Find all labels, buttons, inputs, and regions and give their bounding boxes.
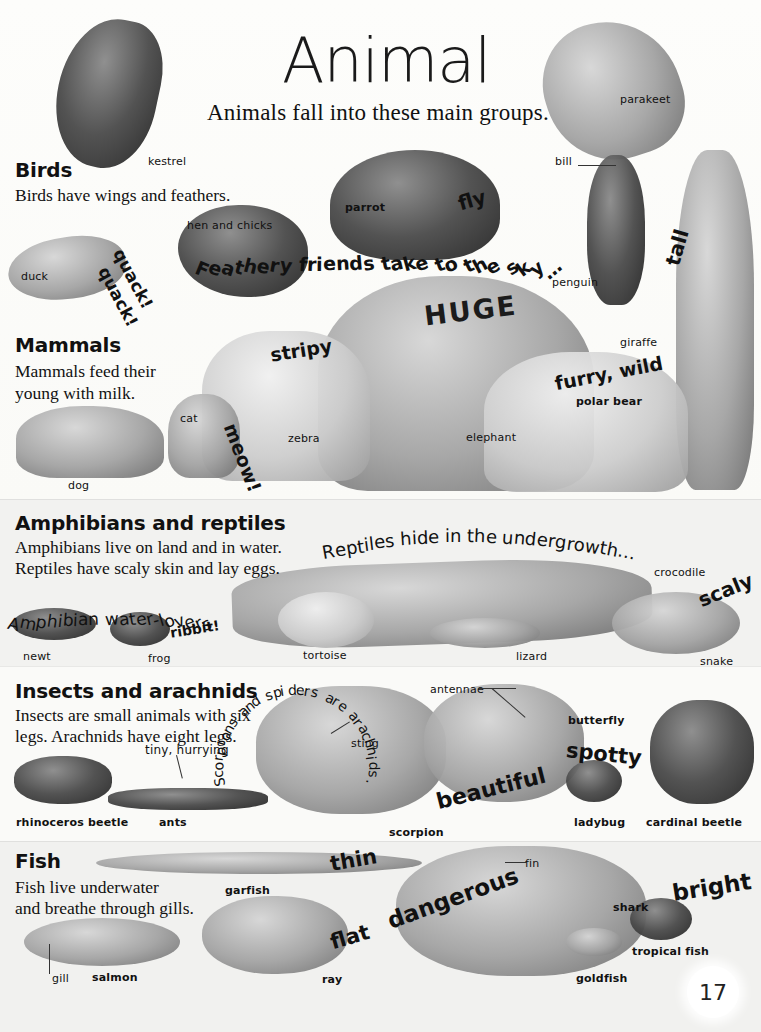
label-garfish: garfish [225, 884, 270, 897]
label-antennae: antennae [430, 683, 484, 696]
section-heading-fish: Fish [15, 849, 61, 873]
photo-cardinal-beetle [650, 700, 754, 804]
leader-line-gill [49, 944, 50, 974]
label-crocodile: crocodile [654, 566, 706, 579]
label-tortoise: tortoise [303, 649, 347, 662]
label-gill: gill [52, 972, 69, 985]
photo-dog [16, 406, 164, 478]
label-ladybug: ladybug [574, 816, 625, 829]
label-snake: snake [700, 655, 733, 668]
page-number: 17 [699, 980, 727, 1005]
label-dog: dog [68, 479, 89, 492]
label-tropical-fish: tropical fish [632, 945, 709, 958]
section-body-birds: Birds have wings and feathers. [15, 184, 230, 206]
arc-text-reptiles-hide: Reptiles hide in the undergrowth… [322, 541, 636, 563]
label-bill: bill [555, 155, 572, 168]
label-frog: frog [148, 652, 171, 665]
label-polar-bear: polar bear [576, 395, 642, 408]
label-lizard: lizard [516, 650, 547, 663]
label-parrot: parrot [345, 201, 385, 214]
photo-goldfish [566, 928, 622, 956]
section-heading-insects-arachnids: Insects and arachnids [15, 679, 258, 703]
arc-text-amphibian-water-lovers: Amphibian water-lovers [8, 614, 211, 635]
page-subtitle: Animals fall into these main groups. [207, 100, 549, 126]
label-cat: cat [180, 412, 198, 425]
section-heading-mammals: Mammals [15, 333, 121, 357]
label-parakeet: parakeet [620, 93, 670, 106]
label-kestrel: kestrel [148, 155, 186, 168]
section-body-mammals-line1: Mammals feed their [15, 360, 156, 382]
arc-text-feathery-friends: Feathery friends take to the sky… [196, 258, 561, 281]
label-giraffe: giraffe [620, 336, 657, 349]
section-heading-amphibians-reptiles: Amphibians and reptiles [15, 511, 285, 535]
label-ray: ray [322, 973, 342, 986]
label-cardinal-beetle: cardinal beetle [646, 816, 742, 829]
label-scorpion: scorpion [389, 826, 444, 839]
label-hen-and-chicks: hen and chicks [187, 219, 272, 232]
photo-ray [202, 896, 348, 974]
leader-line-antennae [478, 688, 516, 689]
section-body-fish-line2: and breathe through gills. [15, 897, 194, 919]
section-heading-birds: Birds [15, 158, 72, 182]
section-body-insects-line1: Insects are small animals with six [15, 704, 251, 726]
section-body-fish-line1: Fish live underwater [15, 876, 159, 898]
photo-ants [108, 788, 268, 810]
page-number-badge: 17 [687, 966, 739, 1018]
label-duck: duck [21, 270, 48, 283]
label-rhinoceros-beetle: rhinoceros beetle [16, 816, 128, 829]
label-tiny-hurrying: tiny, hurrying [145, 743, 229, 757]
label-newt: newt [23, 650, 51, 663]
section-body-amphibians-line2: Reptiles have scaly skin and lay eggs. [15, 557, 280, 579]
label-goldfish: goldfish [576, 972, 628, 985]
label-fin: fin [525, 857, 540, 870]
photo-tortoise [278, 592, 374, 648]
photo-salmon [24, 918, 180, 966]
photo-lizard [430, 618, 540, 648]
divider-3 [0, 841, 761, 842]
photo-rhinoceros-beetle [14, 756, 112, 804]
label-butterfly: butterfly [568, 714, 625, 727]
leader-line-bill [578, 165, 616, 166]
label-shark: shark [613, 901, 649, 914]
divider-2 [0, 666, 761, 667]
section-body-amphibians-line1: Amphibians live on land and in water. [15, 536, 282, 558]
label-ants: ants [159, 816, 187, 829]
label-elephant: elephant [466, 431, 516, 444]
label-zebra: zebra [288, 432, 320, 445]
divider-1 [0, 499, 761, 500]
section-body-mammals-line2: young with milk. [15, 382, 135, 404]
encyclopedia-page: Animal Animals fall into these main grou… [0, 0, 761, 1032]
label-salmon: salmon [92, 971, 138, 984]
page-title: Animal [282, 30, 491, 92]
